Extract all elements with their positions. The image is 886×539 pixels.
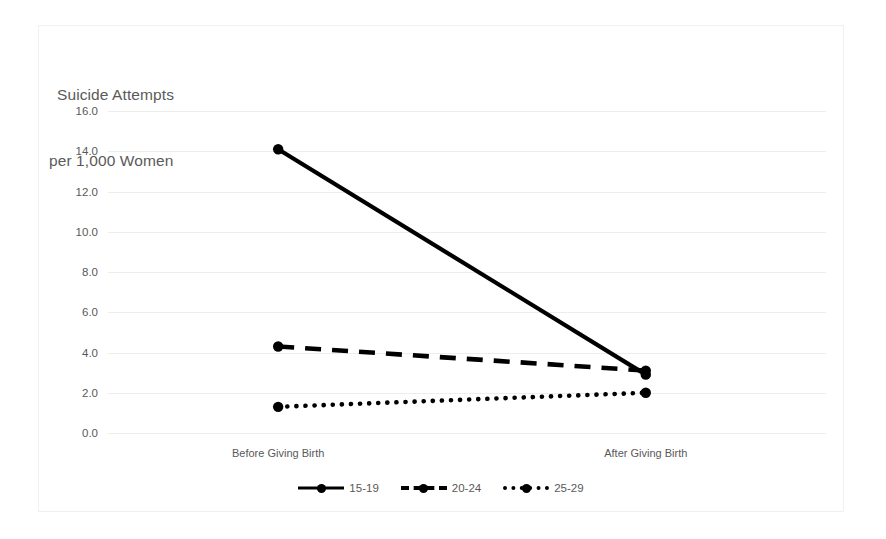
- gridline: [108, 433, 826, 434]
- y-axis-tick-label: 0.0: [82, 427, 98, 439]
- y-axis-tick-label: 10.0: [76, 226, 98, 238]
- y-axis-tick-label: 12.0: [76, 186, 98, 198]
- legend-marker-icon: [401, 481, 447, 495]
- chart-container: Suicide Attempts per 1,000 Women 16.014.…: [38, 25, 844, 512]
- y-axis-tick-label: 16.0: [76, 105, 98, 117]
- series-lines-group: [108, 111, 826, 433]
- data-point-marker: [641, 388, 651, 398]
- data-point-marker: [273, 402, 283, 412]
- legend-label: 15-19: [349, 482, 378, 494]
- y-axis-tick-label: 4.0: [82, 347, 98, 359]
- data-point-marker: [273, 341, 283, 351]
- series-25-29: [273, 388, 651, 412]
- legend-marker-icon: [503, 481, 549, 495]
- series-line: [278, 346, 646, 370]
- x-axis-tick-label: Before Giving Birth: [232, 447, 324, 459]
- data-point-marker: [273, 144, 283, 154]
- x-axis-tick-label: After Giving Birth: [604, 447, 687, 459]
- legend-marker-icon: [298, 481, 344, 495]
- data-point-marker: [641, 365, 651, 375]
- y-axis-tick-label: 2.0: [82, 387, 98, 399]
- y-axis-tick-label: 8.0: [82, 266, 98, 278]
- plot-area: 16.014.012.010.08.06.04.02.00.0 Before G…: [108, 111, 826, 433]
- series-line: [278, 393, 646, 407]
- series-line: [278, 149, 646, 374]
- series-20-24: [273, 341, 651, 376]
- chart-legend: 15-1920-2425-29: [39, 481, 843, 495]
- legend-label: 25-29: [554, 482, 583, 494]
- y-axis-tick-label: 14.0: [76, 145, 98, 157]
- legend-item-15-19[interactable]: 15-19: [298, 481, 378, 495]
- legend-label: 20-24: [452, 482, 481, 494]
- series-15-19: [273, 144, 651, 380]
- legend-item-20-24[interactable]: 20-24: [401, 481, 481, 495]
- legend-item-25-29[interactable]: 25-29: [503, 481, 583, 495]
- chart-title-line-1: Suicide Attempts: [49, 84, 174, 106]
- y-axis-tick-label: 6.0: [82, 306, 98, 318]
